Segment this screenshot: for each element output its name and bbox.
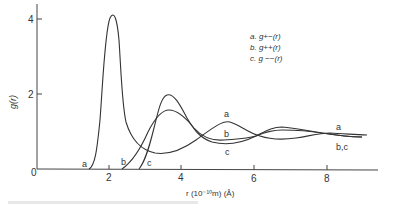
x-tick-label-6: 6 (251, 173, 257, 184)
legend: a. g+−(r) b. g++(r) c. g −−(r) (250, 31, 282, 64)
curve-label-a-end: a (336, 122, 341, 132)
curve-label-a-mid: a (224, 109, 229, 119)
x-tick-label-4: 4 (178, 172, 184, 183)
curve-label-b-mid: b (224, 129, 229, 139)
x-axis-label: r (10⁻¹⁰m) (Å) (186, 189, 234, 198)
figure-caption-faint (8, 201, 198, 204)
curve-b (122, 110, 362, 169)
legend-item-c: c. g −−(r) (250, 53, 282, 64)
curve-label-a-start: a (82, 159, 87, 169)
legend-item-a: a. g+−(r) (250, 31, 282, 42)
x-tick-label-2: 2 (106, 172, 112, 183)
y-axis-label: g(r) (8, 95, 18, 109)
legend-item-b: b. g++(r) (250, 42, 282, 53)
chart-canvas: 4 2 0 2 4 6 8 a b c a b c a b,c (0, 0, 394, 206)
x-tick-label-8: 8 (324, 173, 330, 184)
y-tick-label-2: 2 (28, 89, 34, 100)
y-tick-label-4: 4 (28, 14, 34, 25)
curve-label-c-start: c (147, 158, 152, 168)
curve-label-b-start: b (121, 157, 126, 167)
y-tick-label-0: 0 (31, 167, 37, 178)
curve-label-bc-end: b,c (336, 142, 349, 152)
curve-a (89, 15, 367, 169)
curve-label-c-mid: c (225, 147, 230, 157)
